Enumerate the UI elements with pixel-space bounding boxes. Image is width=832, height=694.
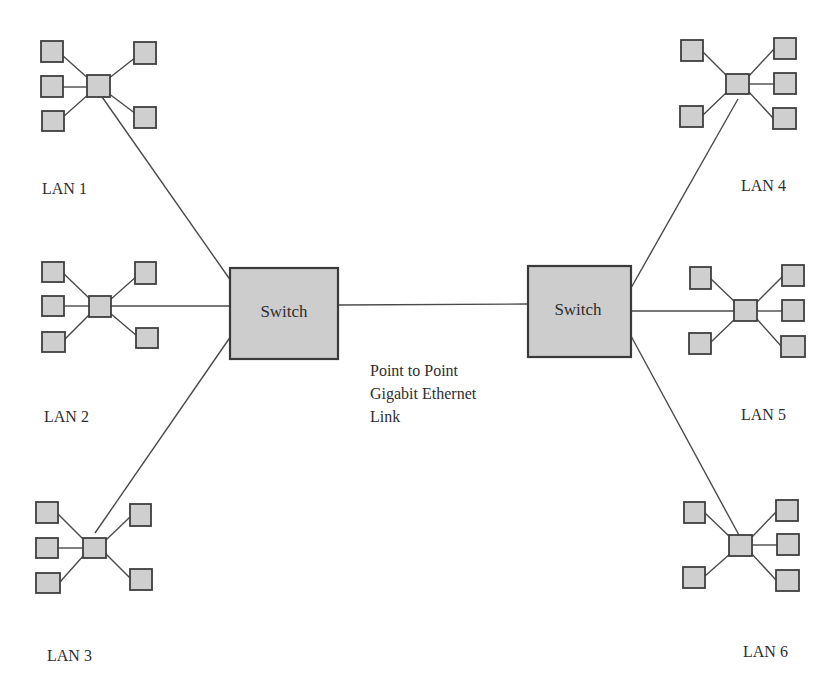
lan1-node-4: [134, 42, 156, 64]
lan3-hub: [83, 538, 106, 558]
lan2-node-1: [42, 262, 64, 282]
lan3-label: LAN 3: [47, 647, 92, 664]
backbone-caption-line-3: Link: [370, 408, 400, 425]
switch-left-label: Switch: [260, 302, 308, 321]
lan5-node-3: [782, 265, 804, 286]
lan4-node-1: [681, 40, 703, 61]
lan6-node-5: [776, 570, 799, 591]
lan2-node-2: [42, 296, 64, 316]
lan6-node-2: [683, 567, 705, 588]
lan2-node-4: [135, 262, 156, 284]
lan2-label: LAN 2: [44, 408, 89, 425]
switch-right: Switch: [528, 266, 631, 357]
lan4-label: LAN 4: [741, 177, 786, 194]
lan4-node-2: [680, 106, 703, 127]
lan2-hub: [89, 296, 111, 317]
lan-5: LAN 5: [689, 265, 805, 423]
network-diagram: LAN 1 LAN 2 LAN 3: [0, 0, 832, 694]
link-lan1-switch: [100, 94, 231, 281]
lan5-node-1: [690, 267, 711, 289]
lan3-node-4: [130, 504, 151, 526]
lan1-node-5: [134, 107, 156, 128]
lan6-node-3: [776, 500, 798, 521]
lan-3: LAN 3: [36, 502, 152, 664]
lan1-label: LAN 1: [42, 180, 87, 197]
lan5-node-2: [689, 333, 711, 354]
lan-1: LAN 1: [41, 41, 156, 197]
switch-left: Switch: [230, 268, 338, 359]
lan6-node-1: [684, 502, 705, 523]
lan4-hub: [726, 74, 749, 94]
backbone-caption-line-2: Gigabit Ethernet: [370, 385, 477, 403]
backbone-link: [338, 304, 528, 305]
lan3-node-2: [36, 538, 58, 558]
lan-6: LAN 6: [683, 500, 799, 660]
switch-right-label: Switch: [554, 300, 602, 319]
lan3-node-3: [36, 573, 60, 593]
link-lan3-switch: [95, 336, 231, 533]
lan2-node-3: [42, 332, 65, 352]
lan1-node-2: [41, 76, 63, 97]
lan6-node-4: [777, 534, 799, 555]
backbone-caption: Point to Point Gigabit Ethernet Link: [370, 362, 477, 425]
lan3-node-5: [130, 569, 152, 590]
lan1-hub: [87, 75, 110, 97]
lan4-node-4: [774, 73, 796, 94]
lan5-node-4: [782, 300, 804, 321]
lan6-hub: [729, 535, 752, 556]
lan3-node-1: [36, 502, 58, 523]
lan1-node-3: [42, 111, 64, 131]
lan4-node-5: [773, 108, 796, 129]
lan5-label: LAN 5: [741, 406, 786, 423]
lan-2: LAN 2: [42, 262, 158, 425]
lan6-label: LAN 6: [743, 643, 788, 660]
lan4-node-3: [774, 38, 796, 59]
lan5-node-5: [781, 336, 805, 357]
lan5-hub: [734, 300, 757, 321]
lan1-node-1: [41, 41, 63, 62]
backbone-caption-line-1: Point to Point: [370, 362, 459, 379]
lan2-node-5: [136, 328, 158, 348]
